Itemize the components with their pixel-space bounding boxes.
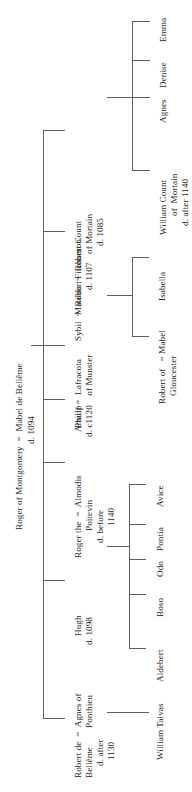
child-william-count-mortain-line3: d. after 1140 bbox=[180, 179, 190, 226]
sybil-child-stub-isabella bbox=[132, 257, 149, 258]
roger-poitevin-line4: 1140 bbox=[106, 508, 116, 526]
child-william-count-mortain-line1: William Count bbox=[158, 180, 168, 235]
child-agnes: Agnes bbox=[158, 99, 168, 123]
sibling-stub-hugh bbox=[43, 580, 65, 581]
sibling-stub-robert-de-belleme bbox=[43, 718, 65, 719]
sybil-descent-connector bbox=[107, 295, 132, 296]
matilda-child-stub-denise bbox=[132, 60, 150, 61]
child-robert-gloucester-line1: Robert of = Mabel bbox=[157, 330, 167, 404]
sybil-name-line2: d. 1107 bbox=[84, 262, 94, 290]
child-boso: Boso bbox=[155, 598, 165, 617]
hugh-name-line2: d. 1098 bbox=[84, 617, 94, 645]
poitevin-descent-connector bbox=[107, 546, 129, 547]
robert-de-belleme-line4: 1130 bbox=[106, 742, 116, 760]
robert-de-belleme-line2: Bellême Ponthieu bbox=[84, 695, 94, 778]
generation2-spine bbox=[43, 130, 44, 719]
root-couple-name: Roger of Montgomery = Mabel de Bellême bbox=[14, 363, 24, 530]
sibling-stub-roger-poitevin bbox=[43, 462, 65, 463]
poitevin-child-stub-pontia bbox=[129, 524, 146, 525]
hugh-name-line1: Hugh bbox=[73, 615, 83, 636]
child-emma: Emma bbox=[158, 18, 168, 42]
child-odo: Odo bbox=[155, 561, 165, 577]
child-denise: Denise bbox=[158, 62, 168, 88]
sibling-stub-philip bbox=[43, 399, 65, 400]
sibling-stub-matilda bbox=[43, 130, 65, 131]
matilda-name-line2: of Mortain bbox=[84, 214, 94, 254]
child-pontia: Pontia bbox=[155, 527, 165, 551]
child-isabella: Isabella bbox=[157, 272, 167, 301]
poitevin-child-stub-odo bbox=[129, 559, 146, 560]
matilda-descent-connector bbox=[107, 97, 132, 98]
matilda-children-spine bbox=[132, 21, 133, 170]
roger-poitevin-line3: d. before bbox=[95, 510, 105, 543]
matilda-name-line3: d. 1085 bbox=[95, 218, 105, 246]
belleme-descent-connector bbox=[107, 712, 149, 713]
family-tree-diagram: Roger of Montgomery = Mabel de Bellême d… bbox=[0, 0, 192, 792]
matilda-child-stub-agnes bbox=[132, 97, 150, 98]
arnulf-name-line2: d. c1120 of Munster bbox=[84, 355, 94, 437]
poitevin-child-stub-avice bbox=[129, 484, 146, 485]
sybil-name-line1: Sybil = Robert Fitzhamon bbox=[73, 239, 83, 341]
sybil-child-stub-robert-gloucester bbox=[132, 336, 149, 337]
matilda-child-stub-william-mortain bbox=[132, 170, 150, 171]
roger-poitevin-line2: Poitevin bbox=[84, 500, 94, 531]
sibling-stub-arnulf bbox=[43, 345, 65, 346]
matilda-child-stub-emma bbox=[132, 21, 150, 22]
child-aldebert: Aldebert bbox=[155, 649, 165, 682]
poitevin-child-stub-aldebert bbox=[129, 648, 146, 649]
child-robert-gloucester-line2: Gloucester bbox=[168, 356, 178, 396]
child-avice: Avice bbox=[155, 485, 165, 507]
robert-de-belleme-line1: Robert de = Agnes of bbox=[73, 693, 83, 778]
child-william-talvas: William Talvas bbox=[155, 703, 165, 760]
child-william-count-mortain-line2: of Mortain bbox=[169, 173, 179, 216]
robert-de-belleme-line3: d. after bbox=[95, 739, 105, 766]
philip-name: Philip bbox=[73, 406, 83, 428]
poitevin-children-spine bbox=[129, 484, 130, 648]
sibling-stub-sybil bbox=[43, 231, 65, 232]
root-couple-death: d. 1094 bbox=[26, 416, 36, 444]
sybil-children-spine bbox=[132, 257, 133, 336]
poitevin-child-stub-boso bbox=[129, 594, 146, 595]
roger-poitevin-line1: Roger the = Almodis bbox=[73, 475, 83, 558]
